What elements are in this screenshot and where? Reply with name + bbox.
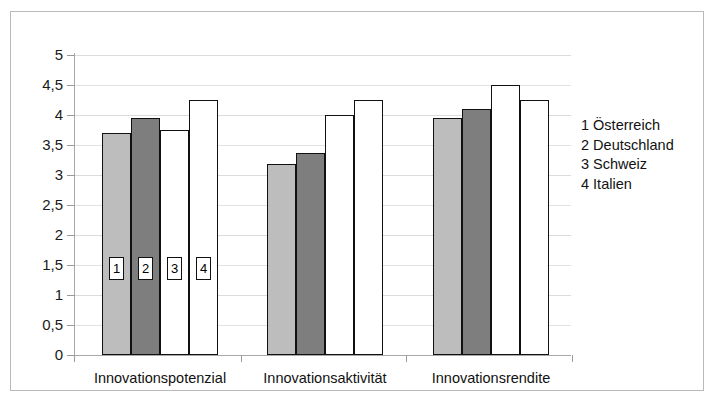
bar [433,118,462,355]
bar [491,85,520,355]
x-axis-tick [572,355,573,362]
x-axis-tick [241,355,242,362]
x-axis-tick [406,355,407,362]
bar [296,153,325,355]
legend-item: 4 Italien [581,175,674,195]
y-axis-tick [67,235,75,236]
bar-number-badge: 3 [167,257,182,280]
y-axis-tick [67,325,75,326]
y-axis-tick [67,115,75,116]
y-axis-label: 5 [17,47,63,62]
bar [160,130,189,355]
bar-number-badge: 1 [109,257,124,280]
x-axis-category-label: Innovationsrendite [391,370,591,386]
x-axis-tick [74,355,75,362]
y-axis-tick [67,265,75,266]
y-axis-tick [67,175,75,176]
y-axis-label: 2,5 [17,197,63,212]
bar [267,164,296,355]
bar [189,100,218,355]
y-axis-label: 1 [17,287,63,302]
bar [102,133,131,355]
y-axis-label: 0,5 [17,317,63,332]
legend-item: 2 Deutschland [581,136,674,156]
bar-number-badge: 2 [138,257,153,280]
y-axis-label: 4 [17,107,63,122]
y-axis-tick [67,55,75,56]
y-axis-label: 2 [17,227,63,242]
chart-frame: 00,511,522,533,544,55 1234 1 Österreich2… [10,11,704,391]
x-axis-line [74,355,571,356]
y-axis-tick [67,145,75,146]
bar [462,109,491,355]
y-axis-label: 0 [17,347,63,362]
gridline [74,55,571,56]
y-axis-labels: 00,511,522,533,544,55 [11,12,63,404]
bar-number-badge: 4 [196,257,211,280]
chart-legend: 1 Österreich2 Deutschland3 Schweiz4 Ital… [581,116,674,194]
legend-item: 1 Österreich [581,116,674,136]
y-axis-label: 1,5 [17,257,63,272]
legend-item: 3 Schweiz [581,155,674,175]
y-axis-label: 3,5 [17,137,63,152]
bar [325,115,354,355]
bar [354,100,383,355]
y-axis-tick [67,205,75,206]
y-axis-label: 3 [17,167,63,182]
y-axis-label: 4,5 [17,77,63,92]
bar [520,100,549,355]
plot-area: 1234 [74,55,571,355]
y-axis-tick [67,85,75,86]
bar [131,118,160,355]
y-axis-tick [67,295,75,296]
